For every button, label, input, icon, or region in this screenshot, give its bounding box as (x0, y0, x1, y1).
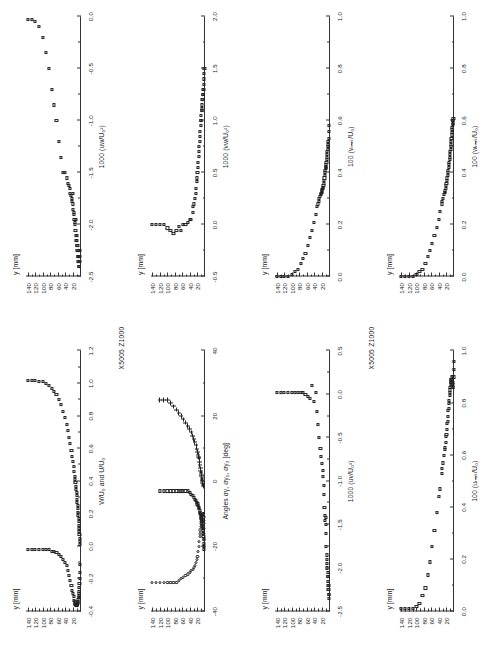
data-point (437, 218, 440, 221)
panel-vw-y-tick (197, 273, 198, 277)
panel-u-w-mean-y-minor-tick (54, 609, 55, 612)
data-point (190, 218, 193, 221)
data-point (34, 378, 37, 381)
data-point (428, 560, 431, 563)
data-point (400, 275, 403, 278)
panel-uw-x-tick-label: -0.5 (87, 63, 94, 74)
panel-urms-y-minor-tick (420, 609, 421, 612)
data-point (202, 87, 205, 90)
data-point (421, 267, 424, 270)
panel-u-w-mean-y-axis-title: y [mm] (12, 588, 19, 609)
data-point (326, 566, 329, 569)
panel-vw-x-minor-tick (203, 249, 206, 250)
panel-urms-x-tick-label: 0.0 (460, 607, 467, 616)
data-point (175, 228, 178, 231)
data-point (71, 202, 74, 205)
panel-angles-y-tick-label: 60 (179, 617, 186, 624)
data-point (69, 442, 72, 445)
data-point (437, 495, 440, 498)
panel-angles-y-tick (175, 607, 176, 611)
panel-urms-x-tick-label: 0.8 (460, 398, 467, 407)
panel-uw-y-tick-label: 40 (62, 283, 69, 290)
data-point (198, 539, 201, 542)
panel-urms-y-axis-title: y [mm] (386, 588, 393, 609)
panel-uv-y-tick-label: 120 (281, 617, 288, 628)
panel-u-w-mean-y-tick (43, 607, 44, 611)
panel-u-w-mean-x-tick-label: 0.8 (87, 411, 94, 420)
panel-u-w-mean-y-minor-tick (47, 609, 48, 612)
panel-wrms-x-tick-label: 0.4 (460, 168, 467, 177)
panel-vrms-y-minor-tick (326, 274, 327, 277)
data-point (322, 475, 325, 478)
panel-uw-x-minor-tick (78, 93, 81, 94)
data-point (196, 554, 199, 557)
data-point (158, 580, 161, 583)
data-point (162, 580, 165, 583)
data-point (72, 465, 75, 468)
data-point (323, 492, 326, 495)
panel-wrms-y-minor-tick (420, 274, 421, 277)
panel-angles-x-minor-tick (203, 577, 206, 578)
data-point (318, 436, 321, 439)
panel-vrms: 0.00.20.40.60.81.020406080100120140100 (… (249, 0, 374, 335)
panel-vrms-y-tick (307, 273, 308, 277)
panel-uw-x-tick-label: -2.5 (87, 271, 94, 282)
panel-uw-y-minor-tick (32, 274, 33, 277)
panel-urms-y-minor-tick (435, 609, 436, 612)
panel-uw-y-minor-tick (69, 274, 70, 277)
data-point (65, 564, 68, 567)
panel-vw-x-tick (201, 15, 205, 16)
data-point (411, 275, 414, 278)
data-point (73, 469, 76, 472)
data-point (197, 150, 200, 153)
data-point (75, 491, 78, 494)
panel-angles-y-minor-tick (179, 609, 180, 612)
panel-wrms-x-tick-label: 1.0 (460, 12, 467, 21)
panel-u-w-mean-y-tick (50, 607, 51, 611)
panel-urms-plot-area: 0.00.20.40.60.81.020406080100120140100 (… (400, 351, 455, 612)
data-point (275, 391, 278, 394)
panel-urms-x-minor-tick (452, 480, 455, 481)
panel-u-w-mean-y-tick (28, 607, 29, 611)
data-point (200, 119, 203, 122)
data-point (26, 548, 29, 551)
panel-uv-y-tick (314, 607, 315, 611)
panel-wrms-y-minor-tick (443, 274, 444, 277)
data-point (197, 544, 200, 547)
panel-angles-y-tick-label: 100 (164, 617, 171, 628)
data-point (64, 416, 67, 419)
data-point (77, 523, 80, 526)
data-point (327, 137, 330, 140)
data-point (452, 385, 455, 388)
data-point (287, 275, 290, 278)
panel-uv-y-tick (284, 607, 285, 611)
panel-uv-y-tick (299, 607, 300, 611)
panel-vrms-y-tick-label: 80 (296, 283, 303, 290)
panel-vw: -0.50.00.51.01.52.0204060801001201401000… (125, 0, 250, 335)
panel-uw-x-tick-label: -1.5 (87, 167, 94, 178)
figure-page: -0.4-0.20.00.20.40.60.81.01.220406080100… (0, 0, 498, 669)
panel-vw-y-minor-tick (171, 274, 172, 277)
panel-urms-x-tick-label: 0.6 (460, 450, 467, 459)
panel-uw-y-tick-label: 100 (39, 283, 46, 294)
data-point (78, 543, 81, 546)
panel-uv: -2.5-2.0-1.5-1.0-0.50.00.520406080100120… (249, 335, 374, 669)
panel-uw-y-minor-tick (62, 274, 63, 277)
data-point (72, 595, 75, 598)
data-point (446, 414, 449, 417)
panel-urms-x-minor-tick (452, 532, 455, 533)
panel-vrms-x-minor-tick (327, 249, 330, 250)
panel-wrms-x-tick-label: 0.2 (460, 220, 467, 229)
data-point (69, 579, 72, 582)
data-point (30, 548, 33, 551)
data-point (77, 517, 80, 520)
data-point (313, 399, 316, 402)
data-point (78, 539, 81, 542)
data-point (71, 460, 74, 463)
data-point (325, 544, 328, 547)
data-point (311, 228, 314, 231)
panel-u-w-mean-y-tick (73, 607, 74, 611)
data-point (193, 564, 196, 567)
panel-angles-y-minor-tick (194, 609, 195, 612)
data-point (324, 516, 327, 519)
